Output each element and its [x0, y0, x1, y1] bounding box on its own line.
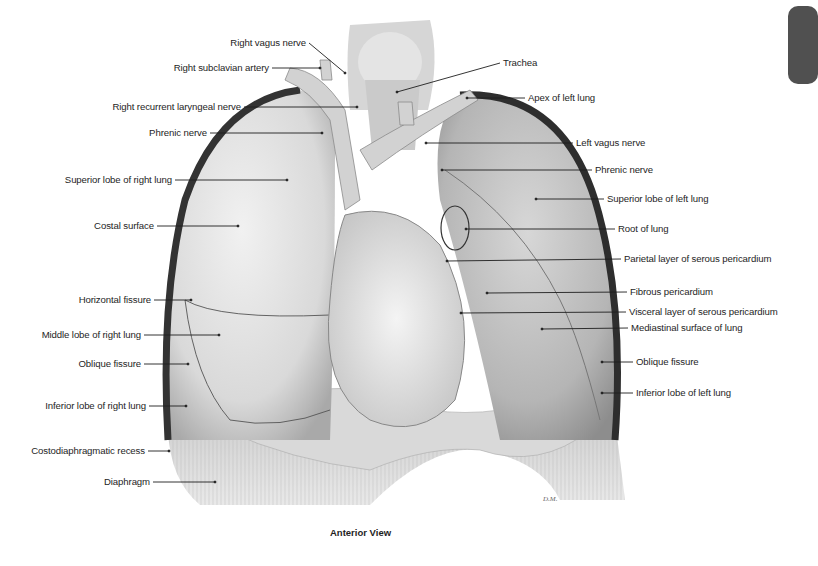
leader-dot-costodiaphragmatic-recess: [168, 450, 170, 452]
leader-dot-diaphragm: [214, 481, 216, 483]
figure-caption: Anterior View: [330, 527, 391, 538]
label-right-subclavian-artery: Right subclavian artery: [174, 62, 269, 73]
label-root-of-lung: Root of lung: [618, 223, 669, 234]
label-mediastinal-surface-of-lung: Mediastinal surface of lung: [631, 322, 742, 333]
artist-signature: D.M.: [543, 495, 557, 503]
leader-dot-superior-lobe-left-lung: [535, 198, 537, 200]
heart-pericardium: [328, 211, 464, 426]
leader-dot-horizontal-fissure: [190, 299, 192, 301]
label-trachea: Trachea: [503, 57, 537, 68]
chapter-tab: [788, 6, 818, 84]
label-superior-lobe-right-lung: Superior lobe of right lung: [65, 174, 172, 185]
label-middle-lobe-right-lung: Middle lobe of right lung: [42, 329, 141, 340]
leader-dot-right-recurrent-laryngeal-nerve: [356, 106, 358, 108]
label-phrenic-nerve-right: Phrenic nerve: [149, 127, 207, 138]
label-costodiaphragmatic-recess: Costodiaphragmatic recess: [31, 445, 145, 456]
leader-dot-oblique-fissure-left: [601, 361, 603, 363]
leader-dot-left-vagus-nerve: [425, 142, 427, 144]
leader-dot-right-vagus-nerve: [344, 72, 346, 74]
label-inferior-lobe-left-lung: Inferior lobe of left lung: [636, 387, 731, 398]
leader-dot-superior-lobe-right-lung: [286, 179, 288, 181]
label-superior-lobe-left-lung: Superior lobe of left lung: [607, 193, 708, 204]
leader-dot-middle-lobe-right-lung: [218, 334, 220, 336]
label-parietal-layer-serous-pericardium: Parietal layer of serous pericardium: [624, 253, 771, 264]
label-oblique-fissure-left: Oblique fissure: [636, 356, 699, 367]
leader-dot-phrenic-nerve-left: [441, 169, 443, 171]
leader-dot-visceral-layer-serous-pericardium: [460, 312, 462, 314]
label-apex-left-lung: Apex of left lung: [528, 92, 595, 103]
label-costal-surface: Costal surface: [94, 220, 154, 231]
leader-dot-right-subclavian-artery: [319, 67, 321, 69]
leader-dot-trachea: [396, 91, 398, 93]
right-lung: [166, 90, 335, 440]
label-fibrous-pericardium: Fibrous pericardium: [630, 286, 713, 297]
label-right-vagus-nerve: Right vagus nerve: [230, 37, 306, 48]
leader-dot-root-of-lung: [465, 228, 467, 230]
label-diaphragm: Diaphragm: [104, 476, 150, 487]
leader-dot-inferior-lobe-left-lung: [601, 392, 603, 394]
leader-dot-fibrous-pericardium: [486, 292, 488, 294]
leader-dot-inferior-lobe-right-lung: [185, 405, 187, 407]
label-inferior-lobe-right-lung: Inferior lobe of right lung: [45, 400, 146, 411]
leader-dot-mediastinal-surface-of-lung: [541, 328, 543, 330]
leader-dot-apex-left-lung: [466, 97, 468, 99]
label-right-recurrent-laryngeal-nerve: Right recurrent laryngeal nerve: [112, 101, 241, 112]
leader-dot-parietal-layer-serous-pericardium: [446, 260, 448, 262]
label-visceral-layer-serous-pericardium: Visceral layer of serous pericardium: [629, 306, 778, 317]
label-phrenic-nerve-left: Phrenic nerve: [595, 164, 653, 175]
leader-dot-oblique-fissure-right: [187, 363, 189, 365]
label-oblique-fissure-right: Oblique fissure: [79, 358, 142, 369]
leader-dot-phrenic-nerve-right: [321, 132, 323, 134]
label-horizontal-fissure: Horizontal fissure: [79, 294, 151, 305]
label-left-vagus-nerve: Left vagus nerve: [576, 137, 645, 148]
leader-dot-costal-surface: [237, 225, 239, 227]
